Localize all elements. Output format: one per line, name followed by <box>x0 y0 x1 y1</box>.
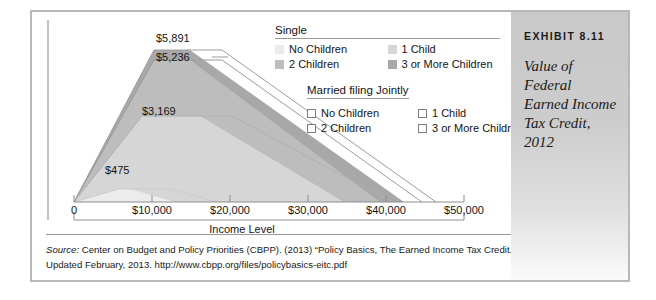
source-lead: Source: <box>46 244 79 255</box>
x-tick-label-10000: $10,000 <box>122 204 182 216</box>
exhibit-frame: $5,891 $5,236 $3,169 $475 0 $10,000 $20,… <box>30 10 630 282</box>
value-label-1-child: $3,169 <box>142 105 176 117</box>
legend-married-item-2-children[interactable]: 2 Children <box>307 122 418 134</box>
legend-married-label-3-or-more-children: 3 or More Children <box>432 122 523 134</box>
x-tick-label-40000: $40,000 <box>356 204 416 216</box>
legend-single-label-2-children: 2 Children <box>289 58 339 70</box>
x-tick-label-50000: $50,000 <box>434 204 494 216</box>
source-line-1: Center on Budget and Policy Priorities (… <box>79 244 515 255</box>
swatch-single-1-child <box>388 45 397 54</box>
swatch-married-2-children <box>307 124 316 133</box>
legend-married-label-1-child: 1 Child <box>432 107 466 119</box>
swatch-married-1-child <box>418 109 427 118</box>
legend-single-label-3-or-more-children: 3 or More Children <box>402 58 493 70</box>
swatch-single-3-or-more-children <box>388 60 397 69</box>
x-tick-label-20000: $20,000 <box>200 204 260 216</box>
exhibit-title: Value of Federal Earned Income Tax Credi… <box>524 57 618 152</box>
legend-married-filing-jointly: Married filing Jointly No Children 1 Chi… <box>307 84 529 134</box>
exhibit-panel: EXHIBIT 8.11 Value of Federal Earned Inc… <box>511 12 628 280</box>
x-tick-label-30000: $30,000 <box>278 204 338 216</box>
legend-single-item-no-children[interactable]: No Children <box>275 43 388 55</box>
legend-single: Single No Children 1 Child 2 Children 3 … <box>275 24 500 70</box>
legend-single-heading: Single <box>275 24 500 39</box>
legend-single-item-3-or-more-children[interactable]: 3 or More Children <box>388 58 501 70</box>
exhibit-number: EXHIBIT 8.11 <box>524 30 618 42</box>
legend-single-item-2-children[interactable]: 2 Children <box>275 58 388 70</box>
swatch-married-3-or-more-children <box>418 124 427 133</box>
swatch-single-2-children <box>275 60 284 69</box>
legend-single-item-1-child[interactable]: 1 Child <box>388 43 501 55</box>
legend-married-label-2-children: 2 Children <box>321 122 371 134</box>
source-note: Source: Center on Budget and Policy Prio… <box>46 234 530 272</box>
legend-married-heading: Married filing Jointly <box>307 84 409 99</box>
swatch-married-no-children <box>307 109 316 118</box>
legend-married-item-no-children[interactable]: No Children <box>307 107 418 119</box>
legend-married-label-no-children: No Children <box>321 107 379 119</box>
source-line-2: Updated February, 2013. http://www.cbpp.… <box>46 259 347 270</box>
value-label-no-children: $475 <box>105 164 129 176</box>
value-label-3-or-more-children: $5,891 <box>156 32 190 44</box>
swatch-single-no-children <box>275 45 284 54</box>
legend-single-label-1-child: 1 Child <box>402 43 436 55</box>
x-tick-label-0: 0 <box>54 204 94 216</box>
value-label-2-children: $5,236 <box>156 51 190 63</box>
legend-single-label-no-children: No Children <box>289 43 347 55</box>
